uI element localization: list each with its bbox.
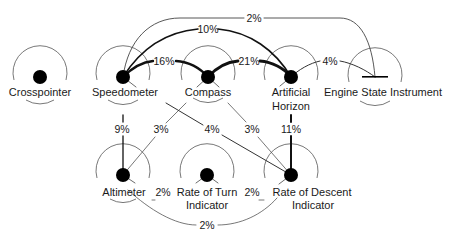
region-compass-bottom: [193, 98, 223, 103]
value-speedometer-compass: 16%: [153, 55, 174, 67]
rate-of-descent-dot: [284, 168, 298, 182]
instrument-labels: Crosspointer Speedometer Compass Artific…: [9, 86, 442, 211]
label-artificial-horizon-2: Horizon: [272, 100, 310, 112]
label-altimeter: Altimeter: [102, 186, 146, 198]
label-rate-of-descent-1: Rate of Descent: [273, 186, 352, 198]
value-compass-descent: 3%: [244, 123, 259, 135]
engine-state-bar: [362, 76, 388, 78]
label-rate-of-turn-2: Indicator: [186, 199, 229, 211]
label-artificial-horizon-1: Artificial: [272, 86, 311, 98]
label-rate-of-descent-2: Indicator: [292, 199, 335, 211]
artificial-horizon-dot: [284, 70, 298, 84]
value-speedometer-descent: 4%: [204, 123, 219, 135]
link-compass-altimeter: [123, 103, 186, 175]
value-compass-altimeter: 3%: [153, 123, 168, 135]
link-compass-descent: [228, 103, 291, 175]
region-engine-state-bottom: [360, 101, 390, 106]
link-speedometer-engine: [123, 18, 375, 77]
link-diagram: Crosspointer Speedometer Compass Artific…: [0, 0, 453, 242]
compass-dot: [201, 70, 215, 84]
label-speedometer: Speedometer: [92, 86, 158, 98]
crosspointer-dot: [33, 70, 47, 84]
link-speedometer-horizon: [123, 29, 291, 77]
value-speedometer-horizon: 10%: [197, 23, 218, 35]
region-speedometer-bottom: [108, 100, 138, 105]
label-engine-state: Engine State Instrument: [324, 86, 442, 98]
value-altimeter-turn: 2%: [155, 186, 170, 198]
rate-of-turn-dot: [200, 168, 214, 182]
value-turn-descent: 2%: [244, 186, 259, 198]
value-speedometer-engine: 2%: [246, 12, 261, 24]
link-speedometer-descent: [166, 103, 291, 175]
region-crosspointer-bottom: [26, 100, 54, 104]
label-crosspointer: Crosspointer: [9, 86, 72, 98]
altimeter-dot: [116, 168, 130, 182]
value-speedometer-altimeter: 9%: [114, 123, 129, 135]
label-compass: Compass: [185, 86, 232, 98]
region-altimeter-bottom: [110, 199, 136, 202]
label-rate-of-turn-1: Rate of Turn: [177, 186, 238, 198]
speedometer-dot: [116, 70, 130, 84]
value-altimeter-descent: 2%: [199, 219, 214, 231]
value-compass-horizon: 21%: [238, 55, 259, 67]
value-horizon-engine: 4%: [322, 55, 337, 67]
value-horizon-descent: 11%: [281, 123, 301, 135]
